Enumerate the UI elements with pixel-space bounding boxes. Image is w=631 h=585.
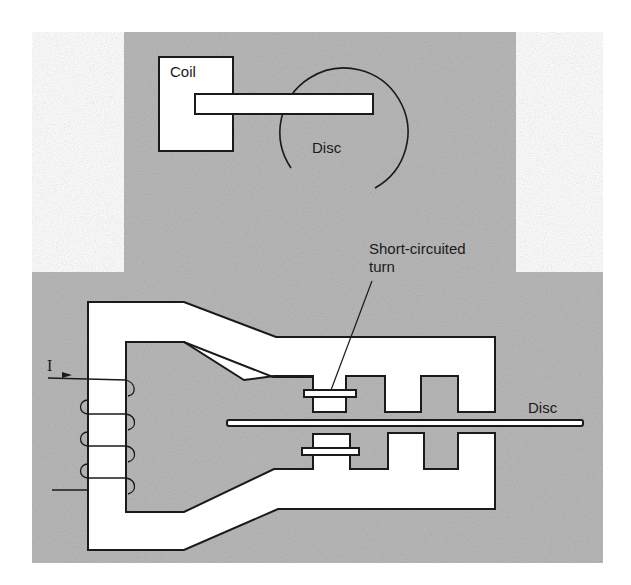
current-label: I [47, 357, 52, 374]
short-circuited-turn-label-line2: turn [369, 258, 395, 275]
short-circuited-turn-label-line1: Short-circuited [369, 240, 466, 257]
side-disc-label: Disc [528, 399, 558, 416]
top-disc-label: Disc [312, 139, 342, 156]
disc-edge [227, 420, 583, 426]
coil-label: Coil [170, 63, 196, 80]
pole-arm [195, 94, 373, 114]
shading-ring-upper [304, 390, 356, 397]
shading-ring-lower [302, 448, 359, 455]
induction-disc-diagram: Coil Disc I Short-circuited turn Disc [0, 0, 631, 585]
